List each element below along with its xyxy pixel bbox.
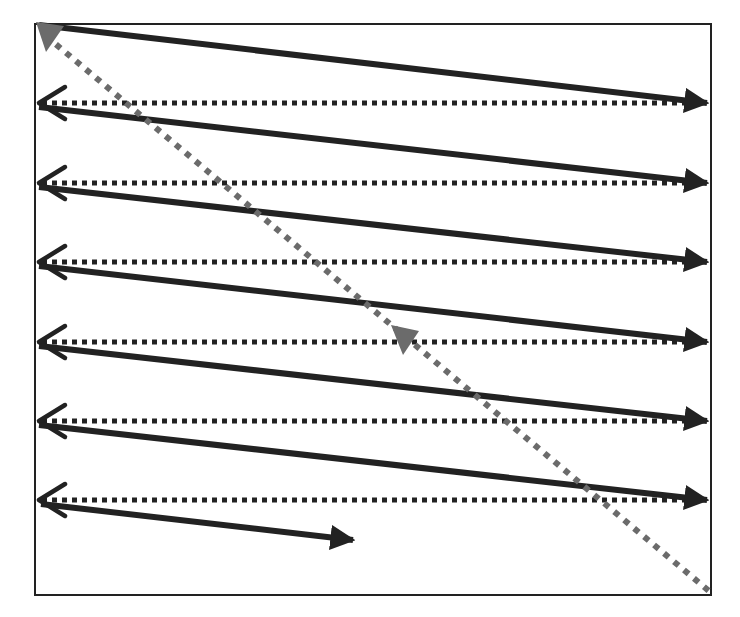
scan-arrow bbox=[39, 346, 707, 421]
diagram-canvas bbox=[0, 0, 740, 617]
frame-border bbox=[35, 24, 711, 595]
scan-arrow bbox=[39, 187, 707, 262]
scan-arrow bbox=[39, 425, 707, 500]
scan-arrow bbox=[39, 266, 707, 342]
scan-arrow bbox=[39, 25, 707, 103]
final-scan-arrow bbox=[41, 504, 353, 540]
raster-scan-diagram bbox=[0, 0, 740, 617]
scan-arrow bbox=[39, 107, 707, 183]
frame bbox=[35, 24, 711, 595]
